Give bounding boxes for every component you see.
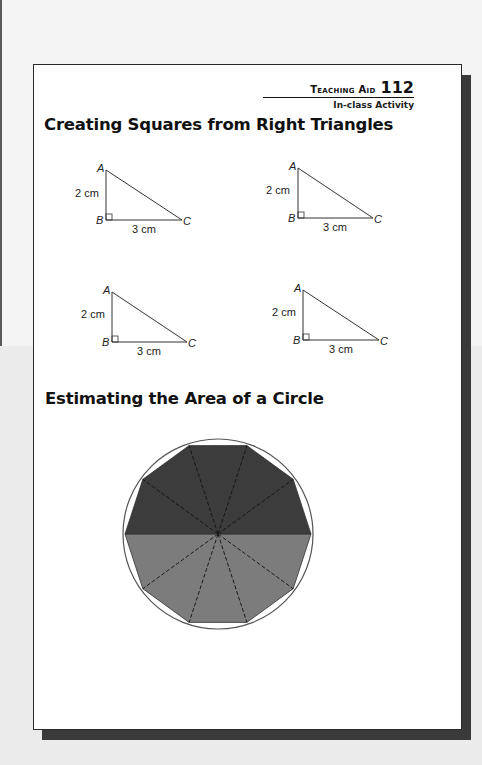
side-bc-label: 3 cm xyxy=(323,221,347,233)
right-triangle-3: A B C 2 cm 3 cm xyxy=(81,284,196,357)
right-angle-marker xyxy=(106,214,112,220)
right-triangle-2: A B C 2 cm 3 cm xyxy=(266,160,382,233)
side-ab-label: 2 cm xyxy=(266,184,290,196)
vertex-a-label: A xyxy=(293,282,301,294)
side-ab-label: 2 cm xyxy=(75,187,99,199)
side-bc-label: 3 cm xyxy=(329,343,353,355)
right-triangle-4: A B C 2 cm 3 cm xyxy=(272,282,388,355)
decagon-top-half xyxy=(125,446,311,534)
vertex-a-label: A xyxy=(96,162,104,174)
vertex-a-label: A xyxy=(102,284,110,296)
vertex-b-label: B xyxy=(293,334,300,346)
side-bc-label: 3 cm xyxy=(137,345,161,357)
vertex-a-label: A xyxy=(288,160,296,172)
vertex-b-label: B xyxy=(288,212,295,224)
side-ab-label: 2 cm xyxy=(81,308,105,320)
side-bc-label: 3 cm xyxy=(132,223,156,235)
right-angle-marker xyxy=(298,212,304,218)
right-angle-marker xyxy=(303,334,309,340)
vertex-b-label: B xyxy=(96,214,103,226)
right-angle-marker xyxy=(112,336,118,342)
vertex-c-label: C xyxy=(380,335,388,347)
vertex-b-label: B xyxy=(102,336,109,348)
vertex-c-label: C xyxy=(188,337,196,349)
right-triangle-1: A B C 2 cm 3 cm xyxy=(75,162,191,235)
vertex-c-label: C xyxy=(183,215,191,227)
figures-layer: A B C 2 cm 3 cm A B C 2 cm 3 cm A B C 2 … xyxy=(0,0,482,765)
side-ab-label: 2 cm xyxy=(272,306,296,318)
decagon-bottom-half xyxy=(125,534,311,622)
vertex-c-label: C xyxy=(374,213,382,225)
circle-area-figure xyxy=(123,439,313,629)
